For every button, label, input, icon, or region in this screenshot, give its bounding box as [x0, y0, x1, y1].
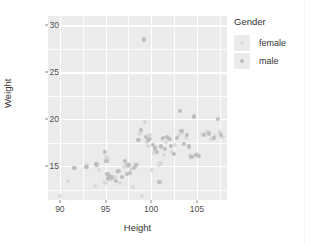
- gridline-major-horizontal: [48, 119, 227, 120]
- data-point-female: [58, 194, 62, 198]
- y-axis-tick-label: 20: [50, 114, 59, 124]
- legend-key-female: [234, 35, 250, 51]
- data-point-female: [66, 179, 70, 183]
- legend-label-female: female: [259, 38, 286, 48]
- point-marker-icon: [240, 41, 244, 45]
- data-point-male: [189, 155, 193, 159]
- data-point-female: [140, 194, 144, 198]
- data-point-female: [173, 143, 177, 147]
- data-point-male: [157, 180, 161, 184]
- data-point-male: [167, 137, 171, 141]
- data-point-female: [162, 153, 166, 157]
- gridline-minor-vertical: [83, 16, 84, 200]
- gridline-major-horizontal: [48, 25, 227, 26]
- data-point-male: [136, 138, 140, 142]
- legend-item-male[interactable]: male: [234, 52, 312, 70]
- data-point-female: [143, 120, 147, 124]
- figure-right-rule: [304, 0, 305, 244]
- y-axis-tick-label: 15: [50, 161, 59, 171]
- scatter-plot-figure: 152025309095100105 Weight Height Gender …: [0, 0, 314, 244]
- data-point-male: [120, 174, 124, 178]
- gridline-major-vertical: [151, 16, 152, 200]
- gridline-minor-horizontal: [48, 96, 227, 97]
- gridline-minor-vertical: [220, 16, 221, 200]
- data-point-male: [187, 144, 191, 148]
- x-axis-tick-mark: [105, 200, 106, 203]
- gridline-minor-horizontal: [48, 49, 227, 50]
- data-point-male: [172, 152, 176, 156]
- data-point-male: [169, 143, 173, 147]
- plot-panel: [48, 16, 227, 200]
- y-axis-tick-label: 30: [50, 20, 59, 30]
- data-point-male: [163, 147, 167, 151]
- data-point-male: [175, 136, 179, 140]
- x-axis-tick-mark: [196, 200, 197, 203]
- gridline-minor-vertical: [174, 16, 175, 200]
- x-axis-tick-label: 90: [55, 204, 64, 214]
- legend-label-male: male: [259, 56, 279, 66]
- x-axis-tick-label: 100: [144, 204, 158, 214]
- data-point-male: [212, 136, 216, 140]
- data-point-female: [97, 168, 101, 172]
- data-point-male: [182, 142, 186, 146]
- data-point-female: [145, 143, 149, 147]
- data-point-male: [192, 114, 196, 118]
- data-point-female: [150, 168, 154, 172]
- data-point-male: [128, 171, 132, 175]
- data-point-male: [104, 158, 108, 162]
- x-axis-label: Height: [48, 222, 227, 233]
- x-axis-tick-mark: [151, 200, 152, 203]
- gridline-major-vertical: [197, 16, 198, 200]
- x-axis-tick-label: 105: [190, 204, 204, 214]
- y-axis-tick-mark: [45, 72, 48, 73]
- gridline-minor-horizontal: [48, 190, 227, 191]
- data-point-female: [118, 181, 122, 185]
- gridline-major-vertical: [60, 16, 61, 200]
- x-axis-tick-mark: [59, 200, 60, 203]
- data-point-male: [155, 150, 159, 154]
- legend-item-female[interactable]: female: [234, 34, 312, 52]
- gridline-major-horizontal: [48, 72, 227, 73]
- data-point-male: [207, 131, 211, 135]
- y-axis-tick-mark: [45, 119, 48, 120]
- y-axis-label: Weight: [2, 79, 13, 108]
- data-point-female: [131, 185, 135, 189]
- y-axis-tick-label: 25: [50, 67, 59, 77]
- x-axis-tick-label: 95: [101, 204, 110, 214]
- data-point-male: [185, 133, 189, 137]
- data-point-male: [142, 37, 146, 41]
- data-point-female: [138, 131, 142, 135]
- legend: Gender female male: [234, 16, 312, 70]
- data-point-male: [113, 179, 117, 183]
- data-point-male: [177, 109, 181, 113]
- point-marker-icon: [240, 59, 244, 63]
- data-point-male: [72, 166, 76, 170]
- y-axis-tick-mark: [45, 25, 48, 26]
- data-point-female: [92, 184, 96, 188]
- legend-key-male: [234, 53, 250, 69]
- data-point-male: [197, 154, 201, 158]
- legend-title: Gender: [234, 16, 312, 27]
- data-point-male: [116, 169, 120, 173]
- gridline-minor-horizontal: [48, 143, 227, 144]
- data-point-female: [158, 161, 162, 165]
- data-point-female: [103, 181, 107, 185]
- data-point-male: [139, 127, 143, 131]
- data-point-male: [84, 165, 88, 169]
- data-point-male: [202, 133, 206, 137]
- y-axis-tick-mark: [45, 166, 48, 167]
